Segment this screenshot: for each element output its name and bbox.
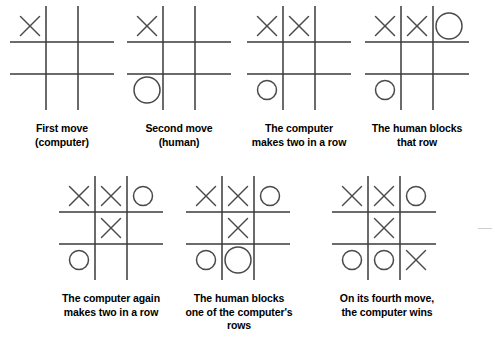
board-6: [190, 180, 286, 276]
board-2: [131, 10, 227, 106]
panel-5-caption: The computer again makes two in a row: [44, 292, 178, 319]
cell-8-mark-x: [407, 251, 426, 270]
panel-1-caption: First move (computer): [2, 122, 122, 149]
cell-6-mark-o: [70, 251, 89, 270]
cell-6-mark-o: [258, 81, 277, 100]
board-7: [336, 180, 432, 276]
board-grid-5: [57, 174, 165, 282]
scan-artifact-tick: [478, 228, 492, 229]
board-grid-4: [363, 4, 471, 112]
cell-2-mark-o: [407, 187, 426, 206]
board-1: [14, 10, 110, 106]
cell-0-mark-x: [258, 17, 277, 36]
board-grid-3: [245, 4, 353, 112]
cell-6-mark-o: [134, 77, 160, 103]
board-grid-7: [330, 174, 438, 282]
cell-4-mark-x: [229, 219, 248, 238]
cell-0-mark-x: [138, 17, 157, 36]
cell-2-mark-o: [134, 187, 153, 206]
board-5: [63, 180, 159, 276]
panel-6-caption: The human blocks one of the computer's r…: [168, 292, 310, 333]
cell-4-mark-x: [375, 219, 394, 238]
board-grid-6: [184, 174, 292, 282]
panel-7-caption: On its fourth move, the computer wins: [320, 292, 454, 319]
board-3: [251, 10, 347, 106]
cell-1-mark-x: [375, 187, 394, 206]
board-grid-1: [8, 4, 116, 112]
board-grid-2: [125, 4, 233, 112]
cell-2-mark-o: [261, 187, 280, 206]
cell-0-mark-x: [197, 187, 216, 206]
cell-1-mark-x: [408, 17, 427, 36]
cell-6-mark-o: [197, 251, 216, 270]
panel-3-caption: The computer makes two in a row: [234, 122, 364, 149]
cell-1-mark-x: [290, 17, 309, 36]
cell-7-mark-o: [225, 247, 251, 273]
panel-4-caption: The human blocks that row: [356, 122, 478, 149]
panel-2-caption: Second move (human): [119, 122, 239, 149]
cell-6-mark-o: [376, 81, 395, 100]
cell-2-mark-o: [436, 13, 462, 39]
cell-7-mark-o: [375, 251, 394, 270]
board-4: [369, 10, 465, 106]
cell-0-mark-x: [70, 187, 89, 206]
tictactoe-figure: First move (computer)Second move (human)…: [0, 0, 495, 344]
cell-0-mark-x: [376, 17, 395, 36]
cell-0-mark-x: [343, 187, 362, 206]
cell-1-mark-x: [229, 187, 248, 206]
cell-0-mark-x: [21, 17, 40, 36]
cell-1-mark-x: [102, 187, 121, 206]
cell-6-mark-o: [343, 251, 362, 270]
cell-4-mark-x: [102, 219, 121, 238]
